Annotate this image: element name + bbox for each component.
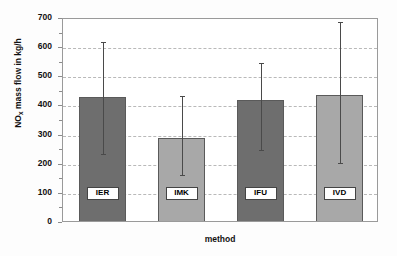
- y-tick-label-0: 0: [18, 217, 52, 226]
- y-tick-label-700: 700: [18, 13, 52, 22]
- bar-label-ier: IER: [87, 187, 119, 200]
- y-tick-0: [58, 222, 62, 223]
- error-bar-imk: [182, 96, 183, 176]
- y-tick-label-200: 200: [18, 159, 52, 168]
- error-bar-ivd: [340, 22, 341, 163]
- error-cap-imk-lower: [180, 175, 185, 176]
- y-axis-title-subscript: x: [17, 111, 24, 115]
- error-bar-ifu: [261, 63, 262, 150]
- y-tick-label-300: 300: [18, 130, 52, 139]
- y-tick-label-400: 400: [18, 100, 52, 109]
- plot-area: IERIMKIFUIVD: [62, 18, 378, 222]
- x-axis-title: method: [62, 234, 378, 244]
- bar-label-ivd: IVD: [324, 187, 356, 200]
- error-cap-imk-upper: [180, 96, 185, 97]
- y-tick-label-100: 100: [18, 188, 52, 197]
- error-cap-ivd-lower: [338, 163, 343, 164]
- gridline-500: [63, 77, 377, 78]
- gridline-600: [63, 48, 377, 49]
- y-axis-title-base: NO: [13, 115, 23, 128]
- error-cap-ifu-lower: [259, 150, 264, 151]
- bar-label-imk: IMK: [166, 187, 198, 200]
- bar-label-ifu: IFU: [245, 187, 277, 200]
- y-tick-label-600: 600: [18, 42, 52, 51]
- error-cap-ier-lower: [101, 154, 106, 155]
- error-cap-ier-upper: [101, 42, 106, 43]
- error-cap-ivd-upper: [338, 22, 343, 23]
- error-bar-ier: [103, 42, 104, 154]
- y-tick-label-500: 500: [18, 71, 52, 80]
- error-cap-ifu-upper: [259, 63, 264, 64]
- figure-canvas: NOx mass flow in kg/h 010020030040050060…: [0, 0, 397, 256]
